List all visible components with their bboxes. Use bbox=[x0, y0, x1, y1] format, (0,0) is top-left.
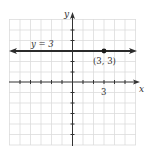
point-label: (3, 3) bbox=[93, 56, 116, 66]
x-axis-label: x bbox=[139, 84, 144, 94]
point-3-3 bbox=[102, 49, 107, 54]
y-axis bbox=[71, 16, 75, 146]
graph: y x y = 3 (3, 3) 3 bbox=[0, 0, 149, 149]
line-label: y = 3 bbox=[30, 39, 54, 49]
y-axis-label: y bbox=[63, 9, 70, 19]
x-tick-label-3: 3 bbox=[101, 87, 106, 97]
